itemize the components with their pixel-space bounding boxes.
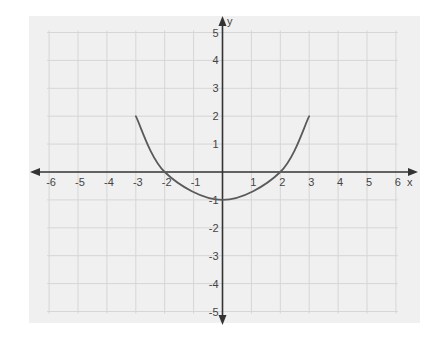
y-tick-label: -2	[209, 222, 219, 234]
y-axis-label: y	[227, 15, 233, 27]
x-tick-label: 1	[250, 176, 256, 188]
y-tick-label: -4	[209, 278, 219, 290]
x-axis-label: x	[407, 176, 413, 188]
x-tick-label: 4	[337, 176, 343, 188]
x-tick-label: -6	[46, 176, 56, 188]
y-tick-label: -5	[209, 306, 219, 318]
y-tick-label: 3	[212, 82, 218, 94]
y-tick-label: 2	[212, 110, 218, 122]
x-tick-label: -3	[133, 176, 143, 188]
x-tick-label: -5	[75, 176, 85, 188]
x-tick-label: 5	[366, 176, 372, 188]
coordinate-plane: x y -6-5-4-3-2-112345654321-1-2-3-4-5	[0, 0, 438, 345]
x-tick-label: 3	[308, 176, 314, 188]
x-tick-label: 6	[395, 176, 401, 188]
plot-background	[29, 16, 420, 323]
x-tick-label: 2	[279, 176, 285, 188]
x-tick-label: -1	[191, 176, 201, 188]
x-tick-label: -4	[104, 176, 114, 188]
y-tick-label: 4	[212, 54, 218, 66]
y-tick-label: -3	[209, 250, 219, 262]
y-tick-label: 1	[212, 138, 218, 150]
y-tick-label: 5	[212, 27, 218, 39]
